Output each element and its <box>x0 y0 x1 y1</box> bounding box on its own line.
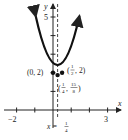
point-label-half-2: ( 1 2 , 2) <box>67 64 86 76</box>
tick-label-neg2: −2 <box>8 115 17 124</box>
svg-text:(: ( <box>67 66 70 75</box>
point-0-2 <box>51 71 55 75</box>
svg-text:4: 4 <box>62 89 65 94</box>
svg-text:x =: x = <box>46 122 57 131</box>
svg-text:(: ( <box>58 84 61 93</box>
svg-text:,: , <box>75 66 77 75</box>
x-axis-label: x <box>117 99 122 108</box>
y-axis-label: y <box>43 2 48 11</box>
svg-text:1: 1 <box>62 82 65 87</box>
parabola-graph: y x 5 −2 3 (0, 2) ( 1 2 , 2) ( 1 4 , 15 … <box>0 0 128 140</box>
axis-of-symmetry-label: x = 1 4 <box>46 121 69 133</box>
tick-label-3: 3 <box>104 115 108 124</box>
point-label-0-2: (0, 2) <box>27 68 44 77</box>
svg-text:2): 2) <box>79 66 86 75</box>
vertex-label: ( 1 4 , 15 8 ) <box>58 82 81 95</box>
svg-text:4: 4 <box>65 128 68 133</box>
svg-text:2: 2 <box>71 71 74 76</box>
point-half-2 <box>60 71 64 75</box>
tick-label-5: 5 <box>44 13 48 22</box>
svg-text:1: 1 <box>71 64 74 69</box>
svg-text:): ) <box>78 84 81 93</box>
vertex-point <box>55 73 59 77</box>
svg-text:,: , <box>66 84 68 93</box>
svg-text:1: 1 <box>65 121 68 126</box>
svg-text:8: 8 <box>73 89 76 94</box>
svg-text:15: 15 <box>71 82 77 87</box>
